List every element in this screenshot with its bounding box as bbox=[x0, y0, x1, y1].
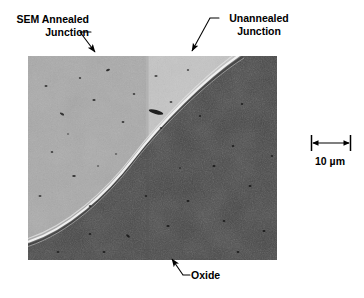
sem-micrograph-figure: SEM Annealed Junction Unannealed Junctio… bbox=[0, 0, 364, 298]
label-oxide-text: Oxide bbox=[191, 269, 220, 282]
unannealed-leader bbox=[192, 18, 219, 51]
label-unannealed-line2: Junction bbox=[222, 25, 296, 38]
label-sem-annealed-junction: SEM Annealed Junction bbox=[11, 13, 89, 38]
label-oxide: Oxide bbox=[191, 269, 220, 282]
label-sem-annealed-line1: SEM Annealed bbox=[11, 13, 89, 26]
oxide-leader bbox=[172, 259, 190, 275]
scale-bar-graphic bbox=[306, 132, 356, 156]
label-sem-annealed-line2: Junction bbox=[11, 26, 89, 39]
scale-bar-label: 10 µm bbox=[304, 155, 356, 168]
micrograph-canvas bbox=[28, 56, 277, 260]
micrograph-image bbox=[28, 56, 277, 260]
label-unannealed-junction: Unannealed Junction bbox=[222, 12, 296, 37]
label-unannealed-line1: Unannealed bbox=[222, 12, 296, 25]
